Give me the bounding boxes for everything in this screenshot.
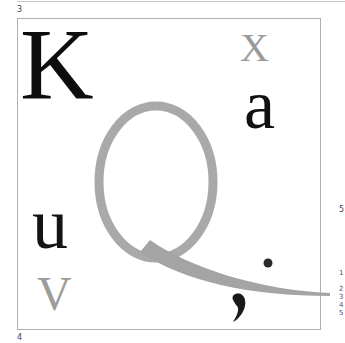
glyph-u: u	[32, 188, 68, 260]
side-num-5: 5	[339, 310, 343, 317]
glyph-V: V	[37, 270, 72, 318]
side-num-2: 2	[339, 286, 343, 293]
label-5: 5	[339, 206, 344, 214]
side-num-1: 1	[339, 270, 343, 277]
label-4: 4	[17, 334, 22, 342]
side-num-3: 3	[339, 294, 343, 301]
side-num-4: 4	[339, 302, 343, 309]
